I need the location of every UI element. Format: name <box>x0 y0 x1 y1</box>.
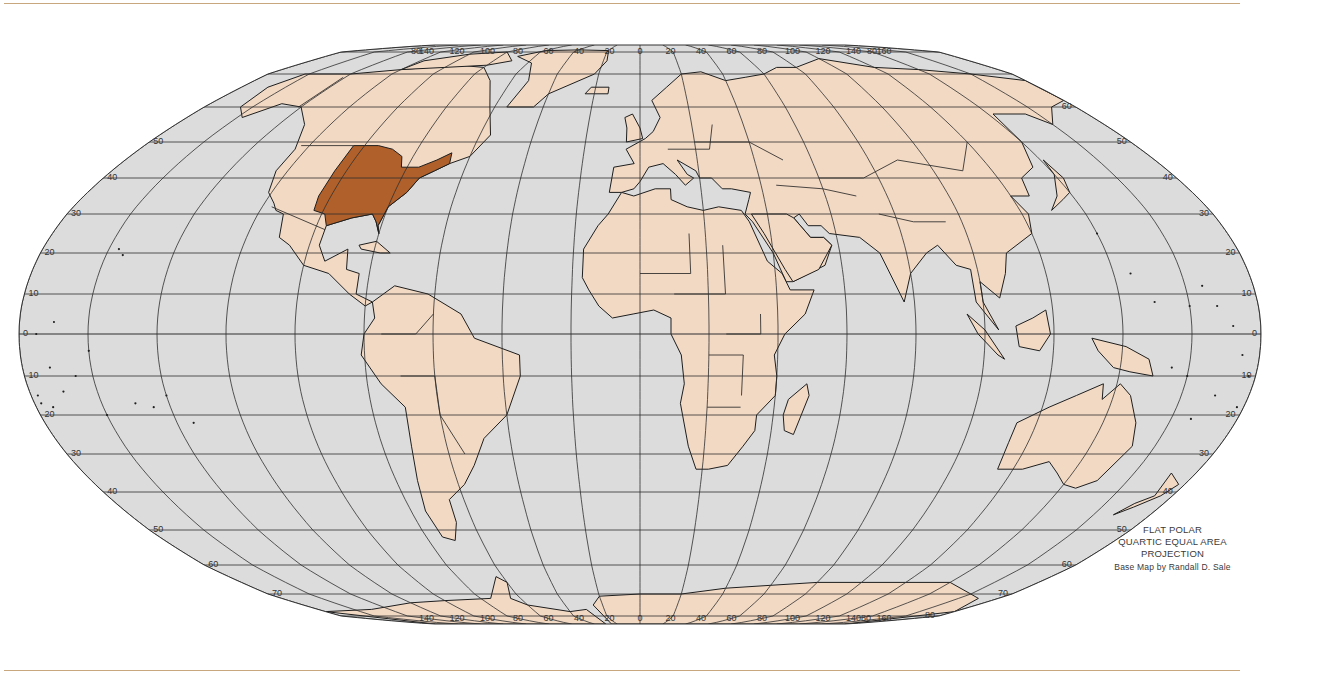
left-latitude-label: 0 <box>23 328 28 338</box>
right-latitude-label: 20 <box>1226 409 1236 419</box>
top-longitude-label: 20 <box>604 46 614 56</box>
projection-caption: FLAT POLAR QUARTIC EQUAL AREA PROJECTION… <box>1110 524 1235 573</box>
left-latitude-label: 50 <box>153 136 163 146</box>
island-dot <box>1236 406 1238 408</box>
island-dot <box>193 422 195 424</box>
top-longitude-label: 60 <box>726 46 736 56</box>
left-latitude-label: 10 <box>28 288 38 298</box>
left-latitude-label: 30 <box>71 208 81 218</box>
bottom-longitude-label: 100 <box>480 613 495 623</box>
left-latitude-label: 20 <box>44 409 54 419</box>
top-longitude-label: 140 <box>846 46 861 56</box>
right-latitude-label: 80 <box>925 610 935 620</box>
bottom-longitude-label: 120 <box>449 613 464 623</box>
right-latitude-label: 70 <box>998 588 1008 598</box>
bottom-longitude-label: 60 <box>543 613 553 623</box>
island-dot <box>1096 232 1098 234</box>
island-dot <box>1201 285 1203 287</box>
bottom-longitude-label: 120 <box>815 613 830 623</box>
island-dot <box>165 394 167 396</box>
bottom-longitude-label: 140 <box>846 613 861 623</box>
top-longitude-label: 140 <box>419 46 434 56</box>
top-longitude-label: 100 <box>480 46 495 56</box>
top-longitude-label: 80 <box>513 46 523 56</box>
island-dot <box>134 402 136 404</box>
caption-line-2: QUARTIC EQUAL AREA <box>1110 536 1235 548</box>
island-dot <box>49 367 51 369</box>
left-latitude-label: 60 <box>208 559 218 569</box>
top-longitude-label: 40 <box>574 46 584 56</box>
island-dot <box>1232 325 1234 327</box>
island-dot <box>35 333 37 335</box>
map-credit: Base Map by Randall D. Sale <box>1110 561 1235 573</box>
right-latitude-label: 40 <box>1163 486 1173 496</box>
bottom-longitude-label: 80 <box>757 613 767 623</box>
island-dot <box>1186 375 1188 377</box>
caption-line-1: FLAT POLAR <box>1110 524 1235 536</box>
top-longitude-label: 120 <box>449 46 464 56</box>
bottom-longitude-label: 160 <box>877 613 892 623</box>
island-dot <box>1214 394 1216 396</box>
top-longitude-label: 120 <box>815 46 830 56</box>
right-latitude-label: 10 <box>1242 288 1252 298</box>
island-dot <box>1189 305 1191 307</box>
right-latitude-label: 40 <box>1163 172 1173 182</box>
left-latitude-label: 70 <box>272 588 282 598</box>
right-latitude-label: 10 <box>1242 370 1252 380</box>
island-dot <box>53 321 55 323</box>
bottom-longitude-label: 20 <box>604 613 614 623</box>
right-latitude-label: 60 <box>1062 101 1072 111</box>
top-longitude-label: 60 <box>543 46 553 56</box>
bottom-longitude-label: 100 <box>785 613 800 623</box>
bottom-longitude-label: 20 <box>665 613 675 623</box>
top-longitude-label: 0 <box>637 46 642 56</box>
right-latitude-label: 0 <box>1252 328 1257 338</box>
caption-line-3: PROJECTION <box>1110 548 1235 560</box>
left-latitude-label: 40 <box>107 486 117 496</box>
bottom-longitude-label: 80 <box>861 613 871 623</box>
left-latitude-label: 20 <box>44 247 54 257</box>
top-longitude-label: 80 <box>757 46 767 56</box>
island-dot <box>106 414 108 416</box>
right-latitude-label: 60 <box>1062 559 1072 569</box>
island-dot <box>122 254 124 256</box>
island-dot <box>1171 367 1173 369</box>
island-dot <box>1241 354 1243 356</box>
left-latitude-label: 30 <box>71 448 81 458</box>
top-longitude-label: 40 <box>696 46 706 56</box>
bottom-longitude-label: 0 <box>637 613 642 623</box>
island-dot <box>62 391 64 393</box>
top-longitude-label: 160 <box>877 46 892 56</box>
island-dot <box>75 375 77 377</box>
bottom-longitude-label: 140 <box>419 613 434 623</box>
island-dot <box>37 394 39 396</box>
island-dot <box>40 402 42 404</box>
world-map: 8014012010080604020020406080100120140160… <box>0 0 1337 680</box>
left-latitude-label: 40 <box>107 172 117 182</box>
top-longitude-label: 20 <box>665 46 675 56</box>
top-longitude-label: 100 <box>785 46 800 56</box>
island-dot <box>153 406 155 408</box>
island-dot <box>52 406 54 408</box>
right-latitude-label: 30 <box>1199 448 1209 458</box>
island-dot <box>88 350 90 352</box>
island-dot <box>1154 301 1156 303</box>
bottom-longitude-label: 60 <box>726 613 736 623</box>
right-latitude-label: 20 <box>1226 247 1236 257</box>
bottom-longitude-label: 80 <box>513 613 523 623</box>
island-dot <box>1216 305 1218 307</box>
left-latitude-label: 50 <box>153 524 163 534</box>
island-dot <box>1190 418 1192 420</box>
right-latitude-label: 50 <box>1117 136 1127 146</box>
island-dot <box>1129 272 1131 274</box>
right-latitude-label: 30 <box>1199 208 1209 218</box>
left-latitude-label: 10 <box>28 370 38 380</box>
bottom-longitude-label: 40 <box>696 613 706 623</box>
island-dot <box>118 248 120 250</box>
bottom-longitude-label: 40 <box>574 613 584 623</box>
top-longitude-label: 80 <box>867 46 877 56</box>
